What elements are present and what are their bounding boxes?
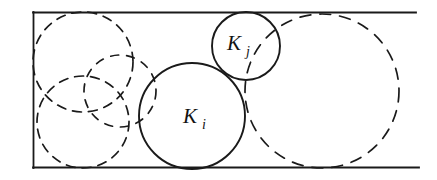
dashed-circle-bottom-left	[37, 76, 129, 168]
label-ki-base: K	[182, 104, 198, 128]
label-kj-base: K	[226, 31, 242, 55]
figure-container: K i K j	[0, 0, 437, 180]
dashed-circle-top-left	[33, 12, 133, 112]
label-ki-subscript: i	[202, 117, 206, 132]
solid-circle-group	[139, 12, 280, 169]
circle-packing-figure: K i K j	[0, 0, 437, 180]
